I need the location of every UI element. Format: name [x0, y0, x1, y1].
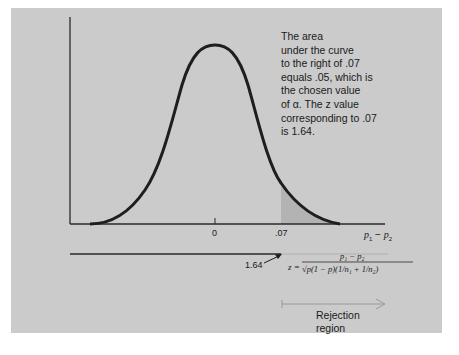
annotation-line: The area [281, 30, 431, 44]
annotation-line: under the curve [281, 44, 431, 58]
tick-label-critical: .07 [275, 228, 288, 238]
formula-lhs: z = [288, 262, 300, 272]
x-axis-label: p1 − p2 [364, 229, 392, 242]
rejection-tail-area [281, 183, 340, 224]
rejection-region-label: Rejection region [316, 309, 360, 335]
annotation-line: the chosen value [281, 84, 431, 98]
rejection-label-line1: Rejection [316, 309, 360, 322]
formula-numerator: p₁ − p₂ [340, 251, 364, 261]
annotation-line: to the right of .07 [281, 57, 431, 71]
x-label-minus: − [372, 229, 383, 240]
formula-denominator: √p(1 − p)(1/n₁ + 1/n₂) [302, 264, 378, 274]
annotation-line: equals .05, which is [281, 71, 431, 85]
rejection-label-line2: region [316, 322, 360, 335]
annotation-line: of α. The z value [281, 98, 431, 112]
tick-label-zero: 0 [212, 228, 217, 238]
annotation-line: is 1.64. [281, 125, 431, 139]
x-label-sub2: 2 [389, 236, 392, 242]
critical-pointer-arrowhead [275, 254, 282, 259]
z-critical-label: 1.64 [245, 260, 263, 270]
tail-area-annotation: The area under the curve to the right of… [281, 30, 431, 139]
annotation-line: corresponding to .07 [281, 112, 431, 126]
